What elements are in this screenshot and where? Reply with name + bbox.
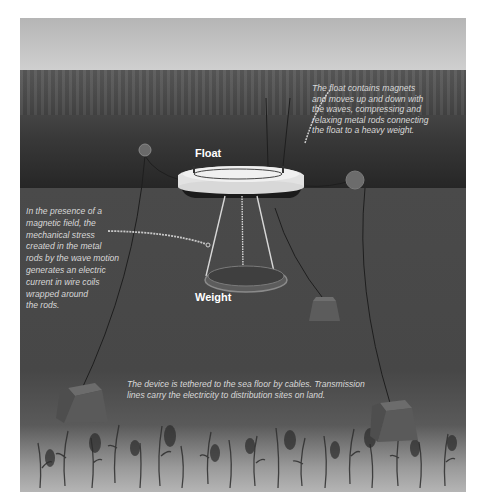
float [178, 166, 304, 198]
anchor-block-left [56, 383, 108, 423]
cables [80, 98, 390, 403]
buoy-right [346, 171, 364, 189]
weight-label: Weight [195, 291, 231, 303]
tether-callout: The device is tethered to the sea floor … [127, 379, 365, 400]
weight [205, 266, 287, 292]
anchor-block-center-right [309, 297, 340, 321]
buoy-left [139, 144, 151, 156]
magnetic-callout-leader [108, 231, 206, 244]
anchor-block-right [370, 400, 418, 442]
magnetic-field-callout: In the presence of a magnetic field, the… [26, 206, 119, 312]
float-label: Float [195, 147, 221, 159]
float-callout: The float contains magnets and moves up … [312, 83, 429, 136]
metal-rods [206, 196, 275, 276]
callout-pointer-dot [206, 243, 210, 247]
wave-energy-diagram: Float Weight The float contains magnets … [20, 18, 466, 492]
